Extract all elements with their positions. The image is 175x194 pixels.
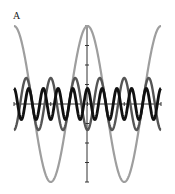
plot-area bbox=[0, 0, 175, 194]
axes bbox=[14, 26, 161, 182]
